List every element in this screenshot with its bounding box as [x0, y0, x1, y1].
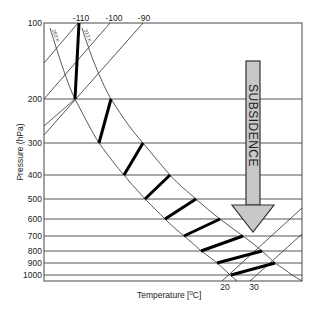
svg-text:400: 400	[28, 170, 42, 180]
skew-t-diagram: 263 K 313 K SUBSIDENCE 100 200 300 400 5…	[0, 0, 317, 312]
svg-text:-100: -100	[105, 13, 122, 23]
svg-text:300: 300	[28, 138, 42, 148]
svg-text:100: 100	[28, 18, 42, 28]
svg-text:30: 30	[249, 282, 259, 292]
svg-text:-110: -110	[73, 13, 90, 23]
bottom-temperature-ticks: 20 30	[220, 282, 259, 292]
plot-frame	[44, 23, 302, 281]
subsidence-arrow: SUBSIDENCE	[232, 61, 274, 232]
svg-text:500: 500	[28, 194, 42, 204]
svg-text:-90: -90	[138, 13, 151, 23]
svg-text:700: 700	[28, 231, 42, 241]
subsidence-label: SUBSIDENCE	[246, 84, 260, 167]
top-temperature-ticks: -110 -100 -90	[73, 13, 151, 23]
svg-text:1000: 1000	[23, 270, 42, 280]
y-axis-title: Pressure (hPa)	[15, 123, 25, 180]
x-axis-title: Temperature [0C]	[137, 290, 201, 300]
svg-text:200: 200	[28, 94, 42, 104]
svg-text:900: 900	[28, 258, 42, 268]
svg-text:800: 800	[28, 246, 42, 256]
y-axis-ticks: 100 200 300 400 500 600 700 800 900 1000	[23, 18, 42, 280]
svg-text:600: 600	[28, 214, 42, 224]
isobar-lines	[44, 99, 302, 275]
svg-text:20: 20	[220, 282, 230, 292]
